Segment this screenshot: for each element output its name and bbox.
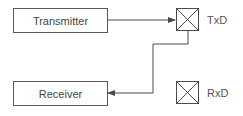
txd-crossed-box-icon bbox=[177, 9, 199, 31]
transmitter-block: Transmitter bbox=[13, 8, 108, 33]
transmitter-label: Transmitter bbox=[33, 15, 88, 27]
receiver-block: Receiver bbox=[13, 81, 108, 106]
rxd-crossed-box-icon bbox=[177, 82, 199, 104]
loopback-diagram: Transmitter Receiver TxD RxD bbox=[0, 0, 243, 116]
receiver-label: Receiver bbox=[39, 88, 82, 100]
txd-pin-label: TxD bbox=[207, 15, 227, 26]
rxd-pin-label: RxD bbox=[207, 88, 228, 99]
